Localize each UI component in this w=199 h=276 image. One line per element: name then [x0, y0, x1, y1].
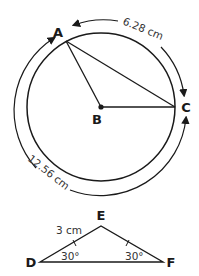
angle-label-d: 30° — [61, 250, 80, 262]
label-b: B — [92, 112, 102, 127]
center-point-b — [98, 104, 103, 109]
arc-a-to-c-arrow — [74, 20, 118, 25]
angle-label-f: 30° — [125, 250, 144, 262]
arc-c-to-a-arrow-start — [14, 38, 54, 168]
label-f: F — [167, 255, 176, 270]
side-label-3cm: 3 cm — [56, 224, 82, 236]
arc-c-to-a-arrow-end — [70, 118, 186, 196]
label-e: E — [97, 208, 106, 223]
label-d: D — [26, 255, 37, 270]
label-a: A — [53, 25, 63, 40]
segment-ac — [66, 41, 175, 107]
geometry-diagram: A B C 6.28 cm 12.56 cm D E F 3 cm 30° 30… — [0, 0, 199, 276]
label-c: C — [181, 100, 191, 115]
